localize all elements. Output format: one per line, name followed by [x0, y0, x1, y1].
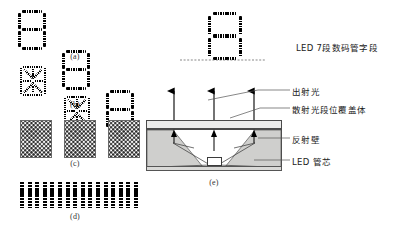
- led-bar-segment: [88, 182, 92, 208]
- panel-c-caption: (c): [30, 159, 120, 168]
- dot-matrix-block: [64, 120, 96, 158]
- seven-segment-digit: [18, 10, 46, 50]
- panel-d-caption: (d): [30, 212, 120, 221]
- callout-emitted-light: 出射光: [292, 85, 320, 97]
- led-bar-segment: [81, 182, 85, 208]
- led-bar-segment: [104, 182, 108, 208]
- led-bar-segment: [58, 182, 62, 208]
- starburst-digit: [20, 66, 46, 96]
- callout-reflector-wall: 反射壁: [292, 133, 320, 145]
- led-bar-segment: [134, 182, 138, 208]
- led-bar-segment: [50, 182, 54, 208]
- led-bar-segment: [28, 182, 32, 208]
- dot-matrix-block: [20, 120, 52, 158]
- dot-matrix-block: [108, 120, 140, 158]
- led-bar-segment: [66, 182, 70, 208]
- panel-e-caption: (e): [190, 178, 238, 187]
- callout-leader-lines: [250, 86, 312, 166]
- sample-baseline: [180, 56, 270, 64]
- led-seven-segment-label: LED 7段数码管字段: [296, 41, 378, 53]
- led-bar-segment: [96, 182, 100, 208]
- led-die: [207, 157, 222, 166]
- led-bar-segment: [73, 182, 77, 208]
- led-bar-segment: [43, 182, 47, 208]
- led-bar-segment: [119, 182, 123, 208]
- panel-b-caption: (b): [30, 100, 120, 109]
- panel-d-bar-array: [20, 182, 138, 208]
- led-bar-segment: [35, 182, 39, 208]
- led-bar-segment: [126, 182, 130, 208]
- led-bar-segment: [20, 182, 24, 208]
- callout-diffuser-cover: 散射光段位覆盖体: [292, 103, 366, 115]
- callout-led-die: LED 管芯: [292, 155, 331, 167]
- panel-a-caption: (a): [30, 52, 120, 61]
- figure-canvas: (a): [0, 0, 394, 238]
- led-seven-segment-sample: [208, 12, 242, 60]
- substrate-layer: [146, 166, 282, 171]
- led-bar-segment: [111, 182, 115, 208]
